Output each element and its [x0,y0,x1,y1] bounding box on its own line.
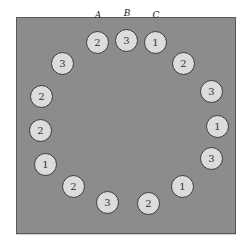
token: 1 [34,153,57,176]
label-b: B [124,8,131,18]
token: 1 [206,115,229,138]
token: 3 [200,80,223,103]
token-b: 3 [115,29,138,52]
token: 3 [51,52,74,75]
token: 2 [137,192,160,215]
label-a: A [95,10,102,20]
token: 2 [30,85,53,108]
token: 1 [171,175,194,198]
token: 2 [29,119,52,142]
token: 2 [62,175,85,198]
label-c: C [153,10,160,20]
token: 3 [96,191,119,214]
token-c: 1 [144,31,167,54]
token: 2 [172,52,195,75]
token: 3 [200,147,223,170]
token-a: 2 [86,31,109,54]
